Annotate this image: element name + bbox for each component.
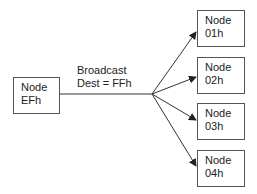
- broadcast-label: Broadcast Dest = FFh: [77, 64, 132, 90]
- node-label-line2: EFh: [21, 94, 59, 107]
- node-02h: Node 02h: [197, 57, 245, 94]
- node-efh: Node EFh: [13, 77, 60, 114]
- node-label-line1: Node: [21, 81, 59, 94]
- node-01h: Node 01h: [197, 10, 245, 47]
- node-04h: Node 04h: [197, 150, 245, 187]
- node-03h: Node 03h: [197, 103, 245, 140]
